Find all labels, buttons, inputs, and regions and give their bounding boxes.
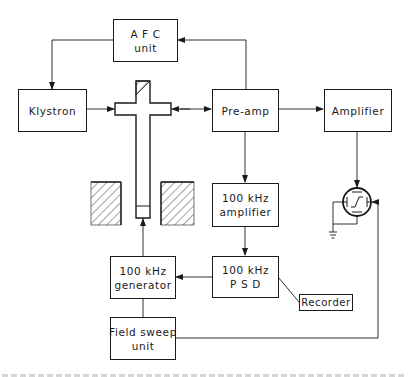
line-afc-to-klystron (52, 40, 113, 89)
generator-line1: 100 kHz (119, 264, 166, 278)
khz-amplifier-line2: amplifier (220, 205, 272, 219)
field-sweep-line2: unit (132, 339, 155, 353)
khz-amplifier-block: 100 kHz amplifier (212, 183, 279, 227)
afc-unit-line1: A F C (130, 27, 160, 41)
psd-line2: P S D (230, 277, 261, 291)
oscilloscope-icon (343, 188, 371, 216)
field-sweep-line1: Field sweep (109, 325, 177, 339)
recorder-label: Recorder (301, 296, 351, 310)
recorder-block: Recorder (299, 294, 353, 311)
preamp-block: Pre-amp (212, 89, 279, 132)
klystron-block: Klystron (18, 89, 87, 132)
amplifier-block: Amplifier (324, 89, 392, 132)
generator-line2: generator (114, 278, 171, 292)
field-sweep-block: Field sweep unit (110, 317, 176, 360)
generator-block: 100 kHz generator (110, 256, 176, 299)
connection-lines (0, 0, 409, 377)
klystron-label: Klystron (29, 104, 77, 118)
afc-unit-line2: unit (134, 41, 157, 55)
line-preamp-to-afc (178, 40, 246, 89)
preamp-label: Pre-amp (221, 104, 269, 118)
afc-unit-block: A F C unit (113, 19, 178, 62)
amplifier-label: Amplifier (332, 104, 385, 118)
line-psd-to-recorder (278, 277, 299, 302)
khz-amplifier-line1: 100 kHz (222, 191, 269, 205)
psd-block: 100 kHz P S D (212, 256, 279, 298)
clipped-caption (0, 372, 409, 377)
magnet-pole-right (161, 182, 194, 225)
magnet-pole-left (91, 182, 121, 225)
psd-line1: 100 kHz (222, 263, 269, 277)
